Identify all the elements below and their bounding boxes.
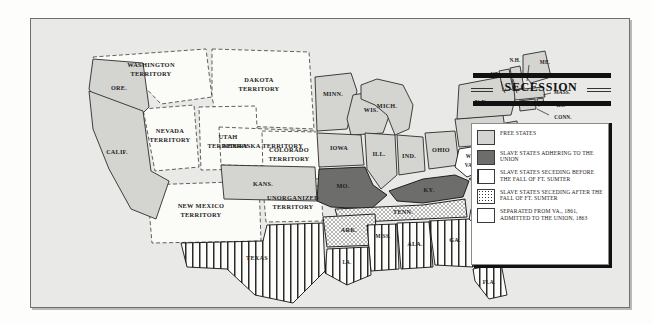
- label-newhampshire: N.H.: [509, 57, 521, 63]
- label-maine: ME.: [540, 59, 551, 65]
- label-iowa: IOWA: [330, 144, 348, 151]
- legend-item-seceding-after: SLAVE STATES SECEDING AFTER THE FALL OF …: [477, 188, 604, 204]
- legend-label-seceding-before: SLAVE STATES SECEDING BEFORE THE FALL OF…: [500, 168, 604, 182]
- label-connecticut: CONN.: [554, 114, 572, 120]
- label-missouri: MO.: [337, 182, 350, 189]
- label-colorado-territory-2: TERRITORY: [268, 155, 309, 162]
- legend-swatch-adhering-icon: [477, 150, 495, 165]
- label-new-mexico-territory-1: NEW MEXICO: [178, 202, 225, 209]
- label-louisiana: LA.: [342, 259, 352, 265]
- legend-label-free-states: FREE STATES: [500, 129, 536, 137]
- label-texas: TEXAS: [246, 254, 268, 261]
- label-colorado-territory-1: COLORADO: [269, 146, 309, 153]
- label-michigan: MICH.: [377, 102, 398, 109]
- label-arkansas: ARK.: [341, 226, 357, 233]
- legend-swatch-seceding-after-icon: [477, 189, 495, 204]
- legend-swatch-free-states-icon: [477, 130, 495, 145]
- legend-item-free: FREE STATES: [477, 129, 604, 145]
- map-frame: WASHINGTON TERRITORY ORE. CALIF. NEVADA …: [30, 18, 630, 308]
- label-florida: FLA.: [483, 279, 496, 285]
- legend-label-separated: SEPARATED FROM VA., 1861, ADMITTED TO TH…: [500, 207, 604, 221]
- region-mississippi: [367, 224, 399, 271]
- label-tennessee: TENN.: [393, 208, 413, 215]
- label-utah-territory-1: UTAH: [218, 133, 237, 140]
- label-washington-territory-1: WASHINGTON: [127, 61, 175, 68]
- label-new-mexico-territory-2: TERRITORY: [180, 211, 221, 218]
- legend-item-adhering: SLAVE STATES ADHERING TO THE UNION: [477, 149, 604, 165]
- label-illinois: ILL.: [372, 150, 385, 157]
- legend-item-separated: SEPARATED FROM VA., 1861, ADMITTED TO TH…: [477, 207, 604, 223]
- legend-swatch-seceding-before-icon: [477, 169, 495, 184]
- label-unorganized-territory-1: UNORGANIZED: [267, 194, 319, 201]
- title-rule-bottom: [473, 101, 611, 106]
- legend-swatch-separated-icon: [477, 208, 495, 223]
- label-washington-territory-2: TERRITORY: [130, 70, 171, 77]
- legend-title-plaque: SECESSION: [467, 71, 615, 111]
- label-kansas: KANS.: [253, 180, 273, 187]
- label-kentucky: KY.: [423, 186, 434, 193]
- label-unorganized-territory-2: TERRITORY: [272, 203, 313, 210]
- label-mississippi: MISS.: [376, 233, 391, 239]
- label-ohio: OHIO: [432, 146, 450, 153]
- label-nevada-territory-1: NEVADA: [156, 127, 184, 134]
- label-indiana: IND.: [402, 152, 416, 159]
- label-minnesota: MINN.: [323, 90, 343, 97]
- legend-label-seceding-after: SLAVE STATES SECEDING AFTER THE FALL OF …: [500, 188, 604, 202]
- label-oregon: ORE.: [111, 84, 127, 91]
- label-georgia: GA.: [449, 236, 461, 243]
- legend-item-seceding-before: SLAVE STATES SECEDING BEFORE THE FALL OF…: [477, 168, 604, 184]
- map-legend: FREE STATES SLAVE STATES ADHERING TO THE…: [471, 123, 609, 265]
- label-dakota-territory-2: TERRITORY: [238, 85, 279, 92]
- title-rule-top: [473, 73, 611, 78]
- page-root: WASHINGTON TERRITORY ORE. CALIF. NEVADA …: [0, 0, 652, 325]
- label-nevada-territory-2: TERRITORY: [149, 136, 190, 143]
- map-title: SECESSION: [467, 80, 615, 95]
- label-alabama: ALA.: [407, 240, 423, 247]
- label-california: CALIF.: [106, 148, 128, 155]
- legend-label-adhering: SLAVE STATES ADHERING TO THE UNION: [500, 149, 604, 163]
- label-dakota-territory-1: DAKOTA: [244, 76, 273, 83]
